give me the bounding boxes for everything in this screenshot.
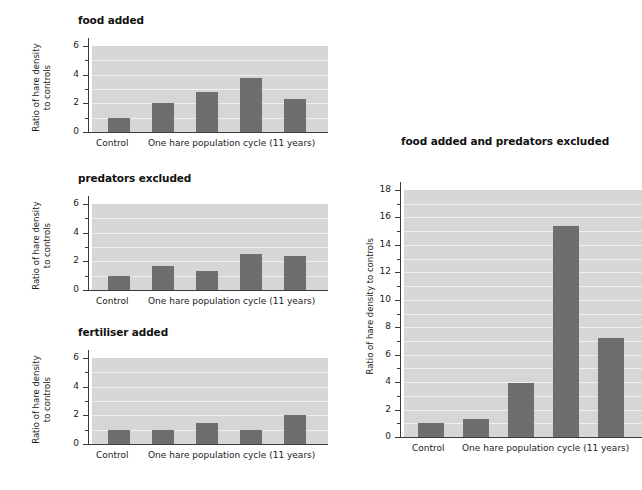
gridline: [92, 387, 328, 388]
y-tick-major: [83, 46, 89, 47]
y-tick-minor: [397, 314, 401, 315]
gridline: [92, 218, 328, 219]
gridline: [404, 259, 642, 260]
gridline: [404, 396, 642, 397]
y-tick-minor: [397, 423, 401, 424]
y-axis-spine-predators-excluded: [88, 196, 89, 290]
gridline: [404, 245, 642, 246]
y-tick-major: [83, 233, 89, 234]
x-axis-label-control-predators-excluded: Control: [96, 296, 129, 306]
bar: [463, 419, 489, 437]
bar: [240, 430, 262, 444]
y-tick-major: [395, 272, 401, 273]
y-tick-major: [83, 387, 89, 388]
y-axis-spine-food-added-and-predators-excluded: [400, 182, 401, 437]
y-tick-major: [83, 103, 89, 104]
bar: [152, 266, 174, 290]
x-axis-label-cycle-fertiliser-added: One hare population cycle (11 years): [148, 450, 315, 460]
bar: [284, 256, 306, 290]
y-tick-minor: [85, 401, 89, 402]
y-tick-major: [395, 217, 401, 218]
gridline: [404, 272, 642, 273]
y-tick-minor: [85, 247, 89, 248]
y-tick-label: 18: [371, 184, 391, 194]
x-axis-label-cycle-predators-excluded: One hare population cycle (11 years): [148, 296, 315, 306]
y-tick-minor: [85, 276, 89, 277]
y-tick-label: 2: [59, 255, 79, 265]
gridline: [92, 118, 328, 119]
y-axis-label-food-added-and-predators-excluded: Ratio of hare density to controls: [365, 181, 376, 431]
gridline: [404, 231, 642, 232]
y-tick-label: 8: [371, 321, 391, 331]
gridline: [404, 314, 642, 315]
y-tick-label: 0: [59, 126, 79, 136]
y-tick-major: [83, 204, 89, 205]
y-tick-label: 16: [371, 211, 391, 221]
bar: [196, 271, 218, 290]
y-tick-label: 14: [371, 239, 391, 249]
x-axis-spine-fertiliser-added: [88, 444, 328, 445]
y-tick-major: [395, 410, 401, 411]
y-tick-major: [395, 327, 401, 328]
y-tick-major: [83, 132, 89, 133]
y-tick-minor: [85, 372, 89, 373]
bar: [284, 415, 306, 444]
gridline: [404, 423, 642, 424]
bar: [284, 99, 306, 132]
y-tick-label: 6: [59, 198, 79, 208]
chart-title-food-added: food added: [78, 14, 144, 26]
gridline: [92, 233, 328, 234]
gridline: [92, 103, 328, 104]
y-tick-label: 2: [371, 404, 391, 414]
y-tick-major: [83, 261, 89, 262]
bar: [508, 383, 534, 437]
x-axis-label-control-food-added: Control: [96, 138, 129, 148]
x-axis-label-cycle-food-added-and-predators-excluded: One hare population cycle (11 years): [462, 443, 629, 453]
bar: [196, 92, 218, 132]
y-tick-major: [83, 75, 89, 76]
y-tick-minor: [85, 89, 89, 90]
y-axis-spine-food-added: [88, 38, 89, 132]
y-tick-minor: [397, 204, 401, 205]
y-axis-label-fertiliser-added: Ratio of hare density to controls: [31, 355, 52, 445]
bar: [553, 226, 579, 437]
gridline: [92, 247, 328, 248]
y-tick-minor: [397, 396, 401, 397]
y-axis-label-predators-excluded: Ratio of hare density to controls: [31, 201, 52, 291]
plot-area-food-added: [92, 46, 328, 132]
gridline: [404, 300, 642, 301]
y-tick-major: [395, 190, 401, 191]
bar: [152, 430, 174, 444]
y-tick-major: [395, 355, 401, 356]
y-tick-minor: [397, 368, 401, 369]
bar: [108, 430, 130, 444]
gridline: [404, 286, 642, 287]
y-tick-label: 2: [59, 409, 79, 419]
x-axis-label-control-food-added-and-predators-excluded: Control: [412, 443, 445, 453]
gridline: [92, 401, 328, 402]
y-tick-label: 10: [371, 294, 391, 304]
gridline: [92, 89, 328, 90]
gridline: [92, 261, 328, 262]
y-axis-spine-fertiliser-added: [88, 350, 89, 444]
gridline: [92, 372, 328, 373]
bar: [108, 276, 130, 290]
y-tick-label: 4: [59, 227, 79, 237]
y-tick-major: [395, 245, 401, 246]
y-tick-label: 0: [59, 438, 79, 448]
gridline: [92, 430, 328, 431]
y-tick-minor: [397, 259, 401, 260]
y-tick-minor: [85, 118, 89, 119]
bar: [240, 254, 262, 290]
gridline: [404, 410, 642, 411]
y-tick-minor: [85, 430, 89, 431]
gridline: [92, 276, 328, 277]
gridline: [404, 327, 642, 328]
x-axis-spine-food-added-and-predators-excluded: [400, 437, 642, 438]
plot-area-predators-excluded: [92, 204, 328, 290]
y-tick-label: 6: [59, 40, 79, 50]
gridline: [404, 382, 642, 383]
y-tick-minor: [397, 231, 401, 232]
